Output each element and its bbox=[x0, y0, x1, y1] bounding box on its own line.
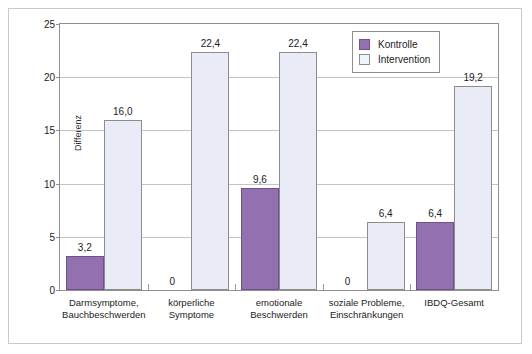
bar-intervention bbox=[279, 52, 317, 290]
category-group: 9,622,4emotionaleBeschwerden bbox=[235, 24, 323, 290]
bar-kontrolle bbox=[416, 222, 454, 290]
bar-value-label: 22,4 bbox=[201, 38, 220, 49]
legend-item-intervention: Intervention bbox=[359, 52, 430, 67]
x-tick-mark bbox=[148, 284, 149, 290]
legend-label-kontrolle: Kontrolle bbox=[378, 39, 417, 50]
bar-value-label: 22,4 bbox=[288, 38, 307, 49]
bar-value-label: 6,4 bbox=[379, 208, 393, 219]
bar-kontrolle bbox=[66, 256, 104, 290]
y-tick-mark bbox=[56, 290, 60, 291]
bar-intervention bbox=[191, 52, 229, 290]
y-tick-label: 15 bbox=[44, 125, 55, 136]
x-tick-label: soziale Probleme,Einschränkungen bbox=[329, 297, 405, 321]
bar-value-label: 0 bbox=[170, 276, 176, 287]
bar-intervention bbox=[104, 120, 142, 290]
bar-value-label: 6,4 bbox=[428, 208, 442, 219]
x-tick-label-line: emotionale bbox=[250, 297, 308, 309]
y-tick-label: 10 bbox=[44, 178, 55, 189]
legend-swatch-kontrolle bbox=[359, 39, 370, 50]
x-tick-mark bbox=[235, 284, 236, 290]
chart-legend: Kontrolle Intervention bbox=[352, 31, 440, 73]
bar-intervention bbox=[454, 86, 492, 290]
y-tick-label: 5 bbox=[49, 231, 55, 242]
x-tick-label-line: Einschränkungen bbox=[329, 309, 405, 321]
bar-value-label: 16,0 bbox=[113, 106, 132, 117]
x-tick-label: Darmsymptome,Bauchbeschwerden bbox=[62, 297, 145, 321]
bar-value-label: 9,6 bbox=[253, 174, 267, 185]
y-tick-label: 20 bbox=[44, 72, 55, 83]
x-tick-label-line: soziale Probleme, bbox=[329, 297, 405, 309]
x-tick-label-line: Bauchbeschwerden bbox=[62, 309, 145, 321]
category-group: 022,4körperlicheSymptome bbox=[148, 24, 236, 290]
bar-value-label: 19,2 bbox=[463, 72, 482, 83]
legend-swatch-intervention bbox=[359, 54, 370, 65]
x-tick-label: IBDQ-Gesamt bbox=[424, 297, 484, 309]
plot-area: Differenz 0510152025 3,216,0Darmsymptome… bbox=[59, 23, 499, 291]
y-tick-label: 0 bbox=[49, 285, 55, 296]
bar-value-label: 0 bbox=[345, 276, 351, 287]
x-tick-mark bbox=[410, 284, 411, 290]
bar-value-label: 3,2 bbox=[78, 242, 92, 253]
chart-frame: Differenz 0510152025 3,216,0Darmsymptome… bbox=[8, 8, 522, 344]
legend-label-intervention: Intervention bbox=[378, 54, 430, 65]
bar-intervention bbox=[367, 222, 405, 290]
bar-kontrolle bbox=[241, 188, 279, 290]
x-tick-label-line: IBDQ-Gesamt bbox=[424, 297, 484, 309]
x-tick-label-line: Darmsymptome, bbox=[62, 297, 145, 309]
x-tick-label-line: körperliche bbox=[168, 297, 214, 309]
x-tick-label: körperlicheSymptome bbox=[168, 297, 214, 321]
category-group: 3,216,0Darmsymptome,Bauchbeschwerden bbox=[60, 24, 148, 290]
x-tick-label-line: Beschwerden bbox=[250, 309, 308, 321]
legend-item-kontrolle: Kontrolle bbox=[359, 37, 430, 52]
x-tick-mark bbox=[323, 284, 324, 290]
y-tick-label: 25 bbox=[44, 19, 55, 30]
x-tick-label: emotionaleBeschwerden bbox=[250, 297, 308, 321]
x-tick-label-line: Symptome bbox=[168, 309, 214, 321]
